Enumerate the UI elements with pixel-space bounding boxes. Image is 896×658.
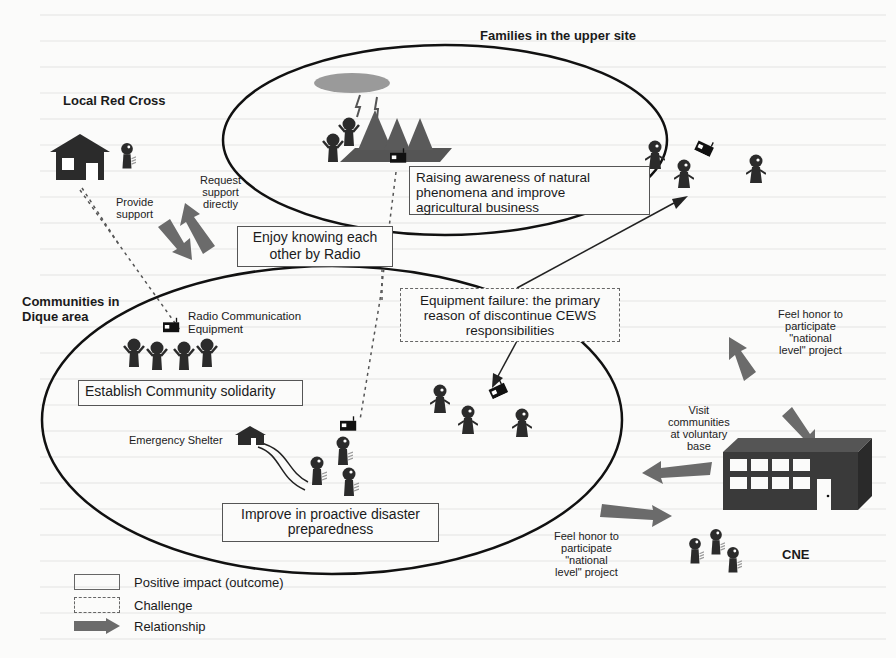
group-title-local-red-cross: Local Red Cross — [63, 93, 166, 108]
label-feel-honor-bottom: Feel honor to participate "national leve… — [554, 530, 619, 578]
dotted-link-redcross-2 — [82, 188, 120, 246]
outcome-improve-preparedness: Improve in proactive disaster preparedne… — [222, 503, 439, 542]
label-visit-communities: Visit communities at voluntary base — [668, 404, 730, 452]
legend-label-challenge: Challenge — [134, 598, 193, 613]
label-provide-support: Provide support — [116, 196, 153, 220]
red-cross-house-icon — [50, 134, 110, 180]
arrow-from-cne-left — [642, 461, 712, 484]
group-title-families-upper-site: Families in the upper site — [480, 28, 636, 43]
outcome-raising-awareness: Raising awareness of natural phenomena a… — [409, 166, 650, 215]
legend-label-relationship: Relationship — [134, 619, 206, 634]
challenge-equipment-failure: Equipment failure: the primary reason of… — [400, 288, 620, 342]
legend-swatch-dashed-box — [74, 597, 120, 613]
legend-swatch-solid-box — [74, 574, 120, 590]
legend-item-relationship: Relationship — [74, 618, 206, 634]
outcome-enjoy-knowing: Enjoy knowing each other by Radio — [237, 226, 393, 267]
legend-label-positive: Positive impact (outcome) — [134, 575, 284, 590]
outcome-establish-solidarity: Establish Community solidarity — [78, 380, 303, 406]
legend-arrow-icon — [74, 618, 120, 634]
group-title-cne: CNE — [782, 547, 809, 562]
dotted-link-upper — [360, 172, 396, 420]
cne-building-icon — [723, 438, 872, 510]
arrow-to-cne-left — [600, 504, 672, 527]
cloud-icon — [314, 73, 390, 93]
emergency-shelter-icon — [235, 426, 266, 445]
arrow-provide-support — [158, 219, 192, 260]
legend-item-challenge: Challenge — [74, 597, 193, 613]
label-emergency-shelter: Emergency Shelter — [129, 434, 223, 447]
label-radio-equipment: Radio Communication Equipment — [188, 310, 301, 336]
label-feel-honor-top: Feel honor to participate "national leve… — [778, 308, 843, 356]
group-title-communities-dique: Communities in Dique area — [22, 294, 120, 324]
legend-item-positive: Positive impact (outcome) — [74, 574, 284, 590]
label-request-support: Request support directly — [200, 174, 241, 210]
arrow-from-cne-top — [729, 337, 756, 381]
